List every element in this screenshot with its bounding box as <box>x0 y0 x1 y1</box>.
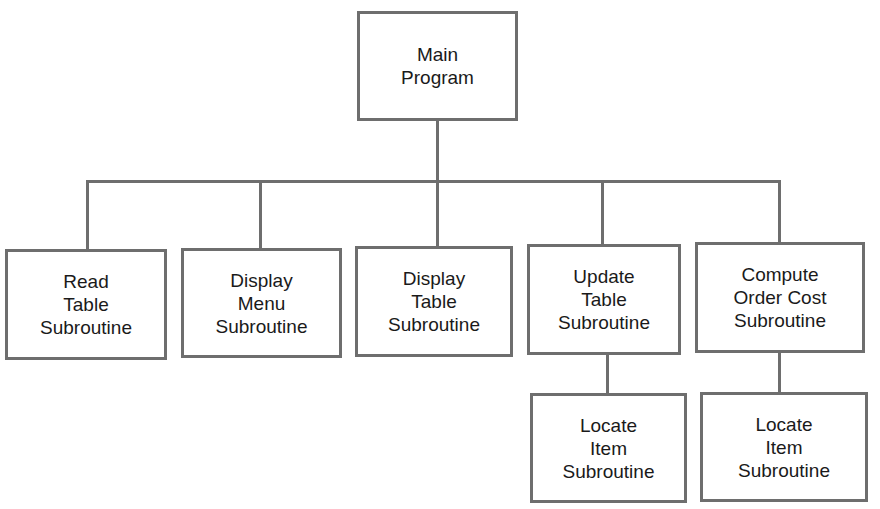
connector-horizontal-bus <box>86 180 781 183</box>
node-label-line: Locate <box>755 413 812 436</box>
structure-chart: Main Program Read Table Subroutine Displ… <box>0 0 880 509</box>
node-compute-order-cost-subroutine: Compute Order Cost Subroutine <box>695 242 865 353</box>
node-label-line: Item <box>766 436 803 459</box>
node-label-line: Subroutine <box>216 315 308 338</box>
node-update-table-subroutine: Update Table Subroutine <box>527 244 681 355</box>
node-label-line: Table <box>411 290 456 313</box>
node-display-table-subroutine: Display Table Subroutine <box>355 246 513 357</box>
node-label-line: Menu <box>238 292 286 315</box>
node-label-line: Update <box>573 265 634 288</box>
node-label-line: Table <box>581 288 626 311</box>
node-label-line: Subroutine <box>734 309 826 332</box>
node-label-line: Subroutine <box>558 311 650 334</box>
connector-read-table <box>86 180 89 250</box>
node-label-line: Compute <box>741 263 818 286</box>
node-label-line: Display <box>230 269 292 292</box>
node-main-program: Main Program <box>357 11 518 121</box>
node-label-line: Order Cost <box>734 286 827 309</box>
node-label-line: Locate <box>580 414 637 437</box>
node-label-line: Table <box>63 293 108 316</box>
connector-update-to-locate <box>606 354 609 394</box>
connector-display-menu <box>259 180 262 249</box>
node-label-line: Item <box>590 437 627 460</box>
connector-update-table <box>601 180 604 245</box>
node-display-menu-subroutine: Display Menu Subroutine <box>181 248 342 358</box>
node-label-line: Subroutine <box>738 459 830 482</box>
node-label-line: Subroutine <box>563 460 655 483</box>
node-label-line: Main <box>417 43 458 66</box>
connector-compute-to-locate <box>778 352 781 393</box>
connector-compute-order-cost <box>778 180 781 243</box>
node-locate-item-subroutine-2: Locate Item Subroutine <box>700 392 868 502</box>
node-label-line: Display <box>403 267 465 290</box>
connector-main-down <box>436 120 439 183</box>
node-label-line: Subroutine <box>388 313 480 336</box>
node-read-table-subroutine: Read Table Subroutine <box>5 249 167 360</box>
node-label-line: Read <box>63 270 108 293</box>
node-locate-item-subroutine-1: Locate Item Subroutine <box>530 393 687 503</box>
node-label-line: Program <box>401 66 474 89</box>
node-label-line: Subroutine <box>40 316 132 339</box>
connector-display-table <box>436 180 439 247</box>
